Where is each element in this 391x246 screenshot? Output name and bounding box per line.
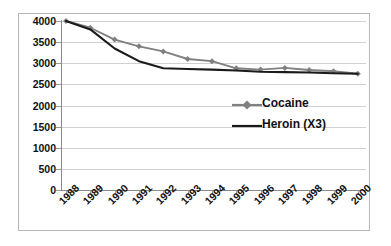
chart-legend: Cocaine Heroin (X3) <box>232 92 352 134</box>
legend-label-cocaine: Cocaine <box>262 96 309 110</box>
legend-marker-heroin <box>232 118 262 130</box>
data-point-marker <box>160 48 166 54</box>
data-point-marker <box>282 65 288 71</box>
legend-label-heroin: Heroin (X3) <box>262 117 326 131</box>
legend-item-cocaine: Cocaine <box>232 92 352 113</box>
series-heroin-x3 <box>66 21 358 74</box>
series-cocaine <box>63 18 361 77</box>
series-line <box>66 21 358 74</box>
legend-item-heroin: Heroin (X3) <box>232 113 352 134</box>
data-point-marker <box>209 58 215 64</box>
legend-marker-cocaine <box>232 97 262 109</box>
data-point-marker <box>185 56 191 62</box>
series-line <box>66 21 358 74</box>
data-point-marker <box>112 37 118 43</box>
chart-figure: 05001000150020002500300035004000 1988198… <box>0 0 391 246</box>
data-point-marker <box>136 43 142 49</box>
